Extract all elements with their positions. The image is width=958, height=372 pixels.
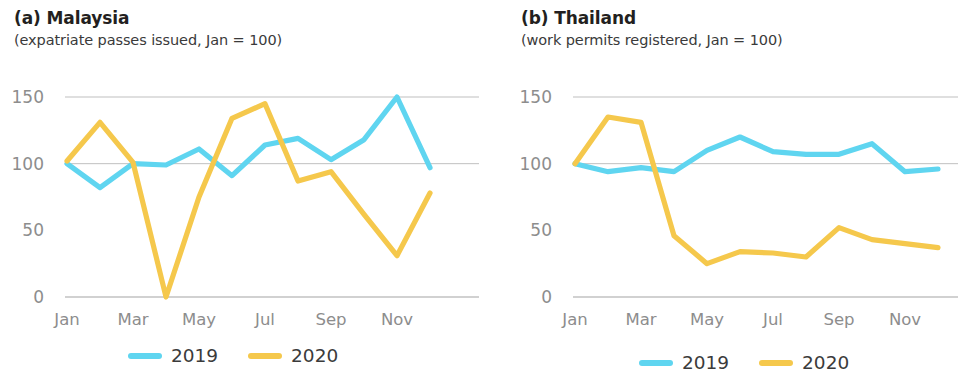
y-axis-tick-label: 150 [520, 87, 552, 107]
legend-label-2020: 2020 [291, 345, 338, 366]
x-axis-tick-label: Sep [823, 310, 854, 328]
panel-thailand: (b) Thailand (work permits registered, J… [479, 0, 958, 372]
x-axis-tick-label: Nov [381, 310, 413, 328]
two-panel-line-chart-figure: (a) Malaysia (expatriate passes issued, … [0, 0, 958, 372]
x-axis-tick-label: Nov [889, 310, 921, 328]
y-axis-tick-label: 50 [530, 220, 552, 240]
x-axis-tick-label: Jul [762, 310, 783, 328]
panel-malaysia-legend: 2019 2020 [128, 345, 338, 366]
panel-thailand-header: (b) Thailand (work permits registered, J… [479, 0, 958, 49]
legend-swatch-2020-icon [759, 360, 793, 366]
legend-item-2020: 2020 [759, 352, 849, 372]
panel-thailand-title: (b) Thailand [521, 9, 958, 29]
panel-malaysia-plot-area: 050100150JanMarMayJulSepNov [0, 78, 479, 328]
legend-swatch-2019-icon [639, 360, 673, 366]
series-line-2020 [67, 104, 430, 297]
x-axis-tick-label: Mar [625, 310, 656, 328]
x-axis-tick-label: May [690, 310, 724, 328]
panel-thailand-legend: 2019 2020 [639, 352, 849, 372]
x-axis-tick-label: Jan [53, 310, 79, 328]
legend-label-2020: 2020 [802, 352, 849, 372]
y-axis-tick-label: 50 [22, 220, 44, 240]
panel-malaysia-title: (a) Malaysia [14, 9, 479, 29]
panel-malaysia: (a) Malaysia (expatriate passes issued, … [0, 0, 479, 372]
legend-item-2019: 2019 [639, 352, 729, 372]
panel-thailand-subtitle: (work permits registered, Jan = 100) [521, 32, 958, 49]
y-axis-tick-label: 100 [520, 154, 552, 174]
legend-item-2019: 2019 [128, 345, 218, 366]
x-axis-tick-label: May [182, 310, 216, 328]
panel-malaysia-svg: 050100150JanMarMayJulSepNov [0, 78, 479, 328]
panel-malaysia-header: (a) Malaysia (expatriate passes issued, … [0, 0, 479, 49]
series-line-2020 [575, 117, 938, 264]
legend-label-2019: 2019 [171, 345, 218, 366]
legend-item-2020: 2020 [248, 345, 338, 366]
x-axis-tick-label: Mar [117, 310, 148, 328]
y-axis-tick-label: 100 [12, 154, 44, 174]
x-axis-tick-label: Jul [254, 310, 275, 328]
legend-label-2019: 2019 [682, 352, 729, 372]
legend-swatch-2020-icon [248, 353, 282, 359]
y-axis-tick-label: 0 [33, 287, 44, 307]
x-axis-tick-label: Sep [315, 310, 346, 328]
legend-swatch-2019-icon [128, 353, 162, 359]
panel-malaysia-subtitle: (expatriate passes issued, Jan = 100) [14, 32, 479, 49]
y-axis-tick-label: 0 [541, 287, 552, 307]
x-axis-tick-label: Jan [561, 310, 587, 328]
series-line-2019 [575, 137, 938, 172]
panel-thailand-svg: 050100150JanMarMayJulSepNov [479, 78, 958, 328]
panel-thailand-plot-area: 050100150JanMarMayJulSepNov [479, 78, 958, 328]
y-axis-tick-label: 150 [12, 87, 44, 107]
